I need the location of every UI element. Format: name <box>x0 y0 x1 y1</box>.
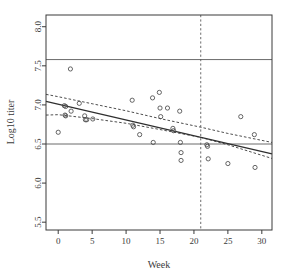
y-tick-label: 6.5 <box>33 138 43 150</box>
x-tick-label: 10 <box>122 236 132 246</box>
y-tick-label: 5.5 <box>33 216 43 228</box>
y-tick-label: 7.0 <box>33 99 43 111</box>
x-tick-label: 5 <box>90 236 95 246</box>
chart-container: 051015202530 5.56.06.57.07.58.0 Week Log… <box>0 0 295 274</box>
x-tick-label: 25 <box>223 236 233 246</box>
plot-background <box>0 0 295 274</box>
x-tick-label: 30 <box>257 236 267 246</box>
y-tick-label: 8.0 <box>33 21 43 33</box>
x-tick-label: 15 <box>156 236 166 246</box>
x-axis-label: Week <box>148 259 171 270</box>
y-tick-label: 7.5 <box>33 60 43 72</box>
scatter-plot: 051015202530 5.56.06.57.07.58.0 Week Log… <box>0 0 295 274</box>
x-tick-label: 20 <box>189 236 199 246</box>
y-axis-label: Log10 titer <box>5 99 16 144</box>
y-tick-label: 6.0 <box>33 177 43 189</box>
x-tick-label: 0 <box>56 236 61 246</box>
